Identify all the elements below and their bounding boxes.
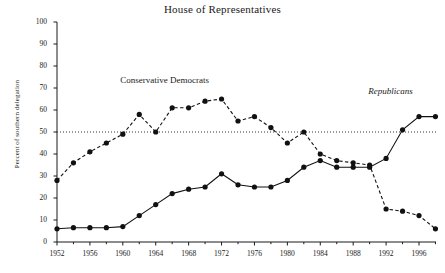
data-point	[137, 112, 142, 117]
data-point	[137, 213, 142, 218]
figure-caption	[0, 268, 445, 273]
data-point	[433, 226, 438, 231]
data-point	[202, 99, 207, 104]
data-point	[120, 132, 125, 137]
data-point	[301, 129, 306, 134]
data-point	[54, 226, 59, 231]
data-point	[153, 202, 158, 207]
plot-area	[0, 0, 445, 273]
data-point	[235, 182, 240, 187]
data-point	[186, 105, 191, 110]
series-label-conservative-democrats: Conservative Democrats	[120, 75, 209, 85]
data-point	[252, 184, 257, 189]
data-point	[219, 171, 224, 176]
data-point	[268, 125, 273, 130]
data-point	[54, 178, 59, 183]
series-label-republicans: Republicans	[368, 86, 413, 96]
data-point	[87, 149, 92, 154]
data-point	[170, 105, 175, 110]
data-series-layer	[54, 96, 438, 231]
data-point	[285, 178, 290, 183]
series-conservative-democrats	[54, 96, 438, 231]
data-point	[153, 129, 158, 134]
data-point	[186, 187, 191, 192]
data-point	[170, 191, 175, 196]
data-point	[318, 158, 323, 163]
data-point	[351, 165, 356, 170]
data-point	[416, 213, 421, 218]
data-point	[104, 225, 109, 230]
data-point	[318, 151, 323, 156]
data-point	[400, 209, 405, 214]
data-point	[87, 225, 92, 230]
data-point	[120, 224, 125, 229]
data-point	[383, 206, 388, 211]
data-point	[219, 96, 224, 101]
data-point	[71, 160, 76, 165]
data-point	[433, 114, 438, 119]
data-point	[252, 114, 257, 119]
axis-lines	[54, 22, 437, 246]
data-point	[71, 225, 76, 230]
data-point	[104, 140, 109, 145]
data-point	[400, 127, 405, 132]
data-point	[367, 165, 372, 170]
data-point	[202, 184, 207, 189]
data-point	[334, 165, 339, 170]
data-point	[285, 140, 290, 145]
data-point	[301, 165, 306, 170]
data-point	[416, 114, 421, 119]
data-point	[235, 118, 240, 123]
data-point	[383, 156, 388, 161]
chart-container: House of Representatives Percent of sout…	[0, 0, 445, 273]
data-point	[268, 184, 273, 189]
data-point	[334, 158, 339, 163]
